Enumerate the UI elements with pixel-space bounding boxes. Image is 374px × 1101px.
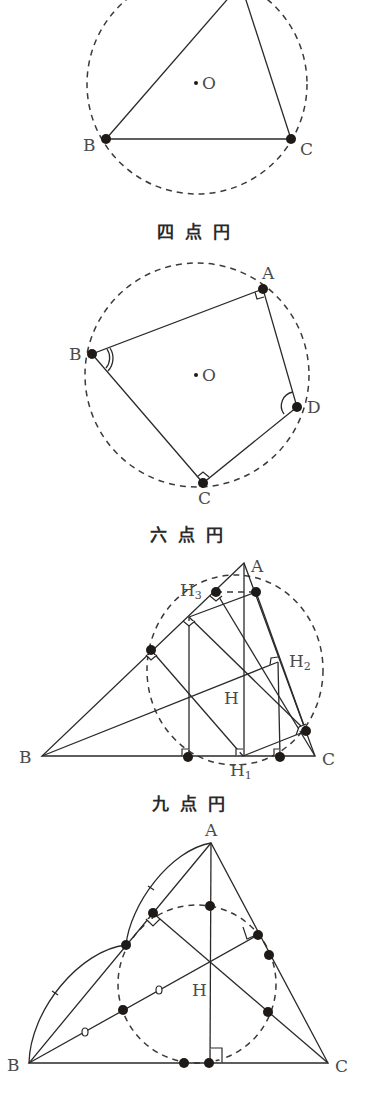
right-angle-h3 xyxy=(146,919,160,926)
label-c: C xyxy=(322,749,335,769)
vertex-d xyxy=(292,402,302,412)
label-o: O xyxy=(202,365,216,385)
point-mid-bc xyxy=(179,1058,189,1068)
vertex-c xyxy=(198,478,208,488)
point-mid-ah xyxy=(205,901,215,911)
label-h: H xyxy=(224,688,239,708)
label-b: B xyxy=(7,1055,20,1075)
point-on-bc-left xyxy=(183,752,193,762)
altitude-c xyxy=(153,913,328,1063)
right-angle-c xyxy=(197,472,209,477)
equal-mark-lower xyxy=(82,1028,88,1036)
label-b: B xyxy=(83,135,96,155)
center-o xyxy=(194,81,198,85)
label-c: C xyxy=(300,139,313,159)
label-c: C xyxy=(198,488,211,508)
equal-mark-upper xyxy=(156,986,162,994)
center-o xyxy=(194,373,198,377)
vertex-b xyxy=(101,134,111,144)
point-on-ac-top xyxy=(251,587,261,597)
angle-arc-b-inner xyxy=(106,349,110,368)
label-b: B xyxy=(19,747,32,767)
point-mid-ab xyxy=(121,940,131,950)
label-h1: H1 xyxy=(230,760,252,782)
altitude-b xyxy=(29,935,258,1063)
point-on-ac-bottom xyxy=(301,726,311,736)
right-angle-ab-foot xyxy=(183,621,195,626)
point-foot-b xyxy=(253,930,263,940)
label-a: A xyxy=(250,556,264,576)
diagram-six-point-circle: A B C H H3 H2 H1 xyxy=(19,556,335,782)
point-mid-ac xyxy=(264,950,274,960)
label-h2: H2 xyxy=(289,651,311,673)
vertex-a xyxy=(258,284,268,294)
point-mid-ch xyxy=(263,1007,273,1017)
tick-mark-lower xyxy=(52,991,58,995)
angle-arc-d xyxy=(281,392,293,414)
circumcircle xyxy=(87,0,307,194)
vertex-c xyxy=(286,134,296,144)
label-b: B xyxy=(69,344,82,364)
vertex-b xyxy=(87,349,97,359)
point-foot-a xyxy=(204,1058,214,1068)
label-a: A xyxy=(261,263,275,283)
side-ac xyxy=(244,0,291,139)
title-six-point-circle: 六点円 xyxy=(150,525,234,545)
altitude-b xyxy=(42,662,278,756)
label-h3: H3 xyxy=(180,580,202,602)
label-c: C xyxy=(335,1056,348,1076)
quadrilateral-abcd xyxy=(92,289,297,483)
side-ab xyxy=(106,0,232,139)
point-foot-c xyxy=(148,908,158,918)
altitude-a xyxy=(210,843,211,1063)
triangle-abc xyxy=(29,843,328,1063)
geometry-figure: O B C 四点円 O A B C D 六点円 xyxy=(0,0,374,1101)
point-h3 xyxy=(211,587,221,597)
label-a: A xyxy=(204,820,218,840)
label-h: H xyxy=(192,980,207,1000)
title-nine-point-circle: 九点円 xyxy=(151,794,236,814)
point-on-bc-right xyxy=(275,752,285,762)
point-on-ab xyxy=(146,645,156,655)
diagram-nine-point-circle: A B C H xyxy=(7,820,348,1076)
title-four-point-circle: 四点円 xyxy=(157,222,241,242)
diagram-four-point-circle: O A B C D xyxy=(69,263,321,508)
label-o: O xyxy=(202,73,216,93)
label-d: D xyxy=(307,397,321,417)
diagram-circumcircle: O B C xyxy=(83,0,313,194)
point-mid-bh xyxy=(118,1005,128,1015)
